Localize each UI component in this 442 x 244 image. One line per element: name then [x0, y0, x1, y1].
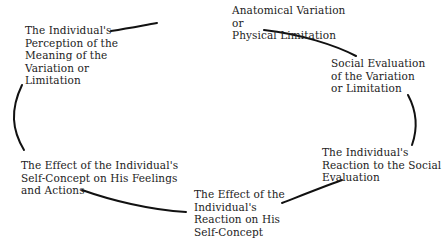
connector-n5-n6 — [14, 85, 24, 150]
node-social-evaluation: Social Evaluation of the Variation or Li… — [331, 57, 425, 95]
node-effect-on-self-concept: The Effect of the Individual's Reaction … — [194, 188, 285, 238]
node-effect-on-feelings-actions: The Effect of the Individual's Self-Conc… — [21, 159, 178, 197]
node-reaction-to-evaluation: The Individual's Reaction to the Social … — [322, 146, 441, 184]
connector-n2-n3 — [408, 95, 415, 145]
node-perception-of-meaning: The Individual's Perception of the Meani… — [25, 24, 118, 87]
node-anatomical-variation: Anatomical Variation or Physical Limitat… — [232, 4, 345, 42]
